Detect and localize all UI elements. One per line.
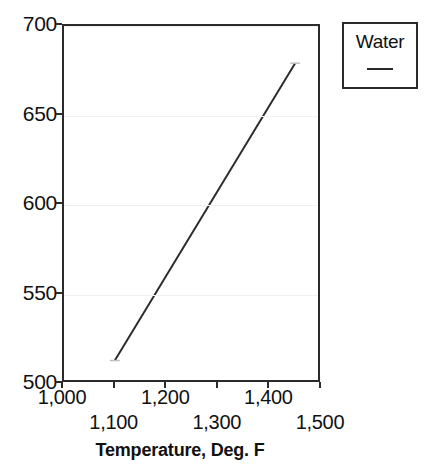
plot-inner bbox=[64, 26, 318, 380]
x-tick-mark bbox=[216, 382, 218, 388]
x-tick-label: 1,300 bbox=[193, 412, 242, 432]
legend-line-marker-water bbox=[367, 68, 393, 70]
gridline-y bbox=[64, 26, 318, 27]
y-tick-mark bbox=[56, 113, 62, 115]
gridline-y bbox=[64, 205, 318, 206]
y-tick-mark bbox=[56, 292, 62, 294]
y-tick-label: 650 bbox=[3, 103, 57, 124]
y-tick-label: 600 bbox=[3, 192, 57, 213]
x-axis-title: Temperature, Deg. F bbox=[0, 440, 360, 461]
x-tick-label: 1,400 bbox=[244, 387, 293, 407]
gridline-y bbox=[64, 116, 318, 117]
y-tick-label: 550 bbox=[3, 282, 57, 303]
y-tick-mark bbox=[56, 23, 62, 25]
data-line-water bbox=[115, 63, 295, 360]
gridline-y bbox=[64, 295, 318, 296]
legend: Water bbox=[342, 22, 418, 89]
x-tick-label: 1,100 bbox=[89, 412, 138, 432]
x-tick-label: 1,500 bbox=[296, 412, 345, 432]
x-tick-mark bbox=[113, 382, 115, 388]
legend-item-label-water: Water bbox=[344, 32, 416, 52]
series-water-line bbox=[64, 26, 318, 380]
y-tick-label: 700 bbox=[3, 13, 57, 34]
x-tick-label: 1,000 bbox=[38, 387, 87, 407]
chart-title bbox=[40, 0, 340, 4]
y-tick-mark bbox=[56, 202, 62, 204]
x-tick-mark bbox=[319, 382, 321, 388]
x-tick-label: 1,200 bbox=[141, 387, 190, 407]
plot-area bbox=[62, 24, 320, 382]
